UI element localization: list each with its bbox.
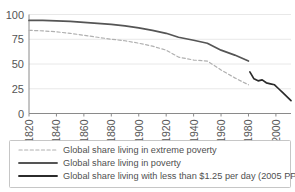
- poverty-line-chart: 0255075100 18201840186018801900192019401…: [0, 0, 295, 192]
- y-tick-label: 0: [18, 108, 24, 120]
- x-tick-labels: 1820184018601880190019201940196019802000: [23, 119, 282, 143]
- legend-label-2: Global share living with less than $1.25…: [63, 171, 295, 181]
- series-line-2: [250, 72, 291, 101]
- x-tick-label: 1940: [188, 119, 200, 143]
- x-tick-label: 1920: [160, 119, 172, 143]
- y-tick-label: 100: [6, 9, 24, 21]
- x-tick-label: 2000: [270, 119, 282, 143]
- legend-label-0: Global share living in extreme poverty: [63, 145, 217, 155]
- x-tick-label: 1900: [133, 119, 145, 143]
- x-tick-label: 1980: [242, 119, 254, 143]
- x-tick-label: 1960: [215, 119, 227, 143]
- y-tick-label: 25: [12, 83, 24, 95]
- chart-canvas: 0255075100 18201840186018801900192019401…: [0, 0, 295, 192]
- y-tick-label: 75: [12, 33, 24, 45]
- y-tick-label: 50: [12, 58, 24, 70]
- x-tick-label: 1820: [23, 119, 35, 143]
- legend-label-1: Global share living in poverty: [63, 158, 181, 168]
- x-tick-label: 1860: [78, 119, 90, 143]
- series-line-1: [29, 20, 248, 61]
- x-tick-label: 1840: [50, 119, 62, 143]
- x-tick-label: 1880: [105, 119, 117, 143]
- y-tick-labels: 0255075100: [6, 9, 24, 120]
- y-gridlines: [29, 15, 291, 114]
- series-line-0: [29, 30, 248, 84]
